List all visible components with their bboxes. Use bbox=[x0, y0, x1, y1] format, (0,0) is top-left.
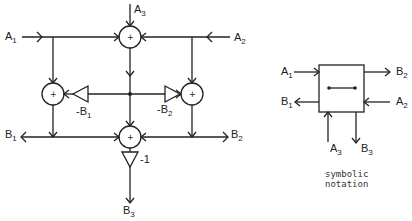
bottom-summer-sign: + bbox=[127, 133, 134, 142]
sym-b1-label: B1 bbox=[281, 95, 293, 110]
right-summer-sign: + bbox=[189, 90, 196, 99]
caption-line-1: symbolic bbox=[325, 169, 368, 179]
right-amp-arrowhead-icon bbox=[176, 90, 181, 98]
right-amplifier-triangle bbox=[165, 86, 180, 102]
symbolic-dot-left bbox=[327, 86, 331, 90]
symbolic-notation: A1 B2 B1 A2 A3 B3 symbolic notation bbox=[281, 65, 408, 189]
b3-label: B3 bbox=[123, 204, 135, 219]
left-amplifier-triangle bbox=[73, 86, 88, 102]
sym-b3-label: B3 bbox=[361, 142, 373, 157]
left-summer-sign: + bbox=[50, 90, 57, 99]
a2-label: A2 bbox=[234, 31, 246, 46]
sym-a3-label: A3 bbox=[330, 142, 342, 157]
caption-line-2: notation bbox=[325, 179, 368, 189]
sym-a1-label: A1 bbox=[281, 65, 293, 80]
left-amplifier-label: -B1 bbox=[76, 105, 92, 120]
bottom-amplifier-triangle bbox=[122, 152, 138, 167]
a1-label: A1 bbox=[5, 30, 17, 45]
sym-b2-label: B2 bbox=[396, 65, 408, 80]
main-diagram: A1 A2 A3 + + + -B1 bbox=[5, 3, 246, 219]
top-summer-sign: + bbox=[127, 33, 134, 42]
sym-a2-label: A2 bbox=[396, 95, 408, 110]
right-amplifier-label: -B2 bbox=[157, 103, 173, 118]
b2-label: B2 bbox=[231, 128, 243, 143]
bottom-amplifier-label: -1 bbox=[140, 153, 150, 165]
scattering-junction-diagram: A1 A2 A3 + + + -B1 bbox=[0, 0, 412, 221]
a3-label: A3 bbox=[134, 3, 146, 18]
symbolic-dot-right bbox=[353, 86, 357, 90]
b1-label: B1 bbox=[5, 128, 17, 143]
